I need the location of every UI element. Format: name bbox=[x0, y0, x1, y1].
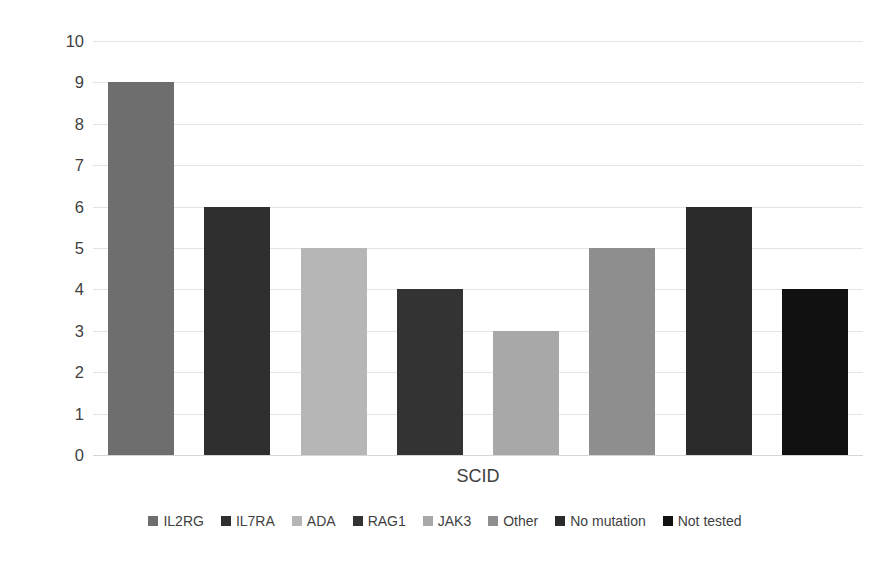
legend-swatch-icon bbox=[555, 516, 565, 526]
bar-rag1[interactable] bbox=[397, 289, 463, 455]
y-tick-label-7: 7 bbox=[75, 157, 84, 174]
legend-swatch-icon bbox=[353, 516, 363, 526]
bar-no-mutation[interactable] bbox=[686, 207, 752, 455]
y-tick-label-2: 2 bbox=[75, 364, 84, 381]
legend-swatch-icon bbox=[292, 516, 302, 526]
bar-other[interactable] bbox=[589, 248, 655, 455]
legend-swatch-icon bbox=[221, 516, 231, 526]
legend-label: IL7RA bbox=[236, 514, 275, 528]
legend-item-rag1[interactable]: RAG1 bbox=[353, 514, 406, 528]
y-tick-label-4: 4 bbox=[75, 281, 84, 298]
y-tick-label-1: 1 bbox=[75, 405, 84, 422]
legend-item-il2rg[interactable]: IL2RG bbox=[148, 514, 203, 528]
legend-item-not-tested[interactable]: Not tested bbox=[663, 514, 742, 528]
legend-swatch-icon bbox=[148, 516, 158, 526]
legend-label: JAK3 bbox=[438, 514, 471, 528]
bar-jak3[interactable] bbox=[493, 331, 559, 455]
bar-not-tested[interactable] bbox=[782, 289, 848, 455]
legend-item-ada[interactable]: ADA bbox=[292, 514, 336, 528]
legend-item-other[interactable]: Other bbox=[488, 514, 538, 528]
y-axis-tick-labels: 109876543210 bbox=[40, 41, 84, 455]
legend-swatch-icon bbox=[488, 516, 498, 526]
legend-label: ADA bbox=[307, 514, 336, 528]
y-tick-label-5: 5 bbox=[75, 240, 84, 257]
y-tick-label-6: 6 bbox=[75, 198, 84, 215]
legend-label: Not tested bbox=[678, 514, 742, 528]
bar-chart: Number of Infants 109876543210 SCID IL2R… bbox=[0, 0, 890, 566]
plot-area bbox=[93, 41, 863, 455]
y-tick-label-3: 3 bbox=[75, 323, 84, 340]
legend-label: RAG1 bbox=[368, 514, 406, 528]
gridline-0 bbox=[93, 455, 863, 456]
y-tick-label-0: 0 bbox=[75, 447, 84, 464]
legend-label: IL2RG bbox=[163, 514, 203, 528]
bar-ada[interactable] bbox=[301, 248, 367, 455]
legend-item-il7ra[interactable]: IL7RA bbox=[221, 514, 275, 528]
legend-item-no-mutation[interactable]: No mutation bbox=[555, 514, 645, 528]
legend-swatch-icon bbox=[423, 516, 433, 526]
legend-swatch-icon bbox=[663, 516, 673, 526]
y-tick-label-8: 8 bbox=[75, 116, 84, 133]
y-tick-label-10: 10 bbox=[66, 33, 84, 50]
legend: IL2RGIL7RAADARAG1JAK3OtherNo mutationNot… bbox=[0, 514, 890, 528]
bar-il2rg[interactable] bbox=[108, 82, 174, 455]
y-tick-label-9: 9 bbox=[75, 74, 84, 91]
x-axis-title: SCID bbox=[93, 466, 863, 487]
legend-label: Other bbox=[503, 514, 538, 528]
legend-label: No mutation bbox=[570, 514, 645, 528]
legend-item-jak3[interactable]: JAK3 bbox=[423, 514, 471, 528]
bar-series bbox=[93, 41, 863, 455]
bar-il7ra[interactable] bbox=[204, 207, 270, 455]
